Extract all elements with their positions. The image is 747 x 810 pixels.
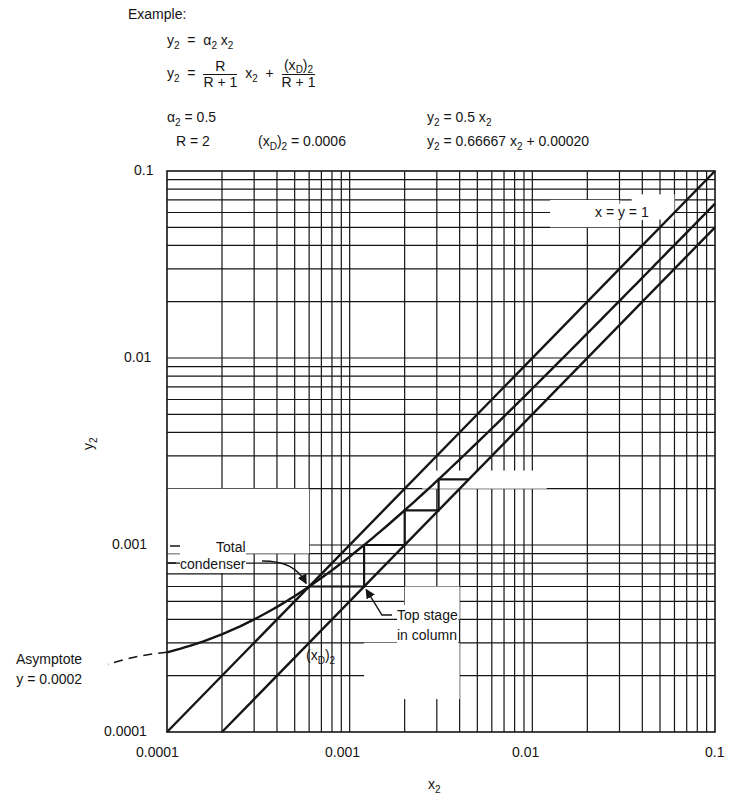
x-tick-0.001: 0.001 [325, 744, 360, 760]
y-label-sub: 2 [88, 437, 99, 443]
y-label-main: y [80, 443, 96, 450]
asymptote-dashed-line [108, 652, 167, 664]
x-tick-0.01: 0.01 [512, 744, 539, 760]
xd-label-a: (x [306, 647, 318, 663]
x-tick-0.0001: 0.0001 [136, 744, 179, 760]
log-log-chart [0, 0, 747, 810]
y-axis-label: y2 [80, 437, 96, 450]
operating-line [167, 204, 715, 653]
total-line2: condenser [180, 556, 246, 573]
total-condenser-label: Total condenser [180, 539, 246, 573]
total-line1: Total [180, 539, 246, 556]
y-tick-0.001: 0.001 [112, 536, 147, 552]
y-tick-0.1: 0.1 [134, 162, 153, 178]
asymptote-line2: y = 0.0002 [16, 669, 82, 689]
xd-label-b: ) [325, 647, 330, 663]
top-stage-label: Top stage in column [397, 605, 458, 645]
top-line2: in column [397, 625, 458, 645]
top-stage-arrow [366, 589, 392, 615]
y-tick-0.0001: 0.0001 [104, 723, 147, 739]
x-label-main: x [428, 776, 435, 792]
top-line1: Top stage [397, 605, 458, 625]
y-tick-0.01: 0.01 [124, 349, 151, 365]
x-axis-label: x2 [428, 776, 441, 792]
x-tick-0.1: 0.1 [705, 744, 724, 760]
asymptote-line1: Asymptote [16, 649, 82, 669]
xd-label-sub2: 2 [330, 655, 336, 666]
asymptote-label: Asymptote y = 0.0002 [16, 649, 82, 689]
xd-line-label: (xD)2 [306, 647, 335, 663]
xy-line-label: x = y = 1 [592, 204, 652, 220]
total-condenser-arrow [262, 561, 306, 583]
xd-label-sub: D [318, 655, 325, 666]
x-label-sub: 2 [435, 784, 441, 795]
